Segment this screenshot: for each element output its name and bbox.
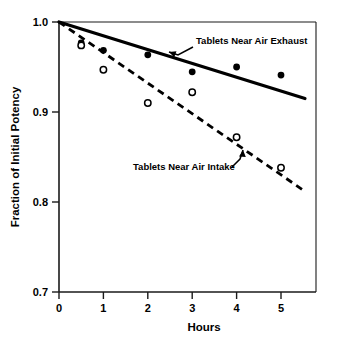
x-tick-label-0: 0 — [56, 302, 62, 314]
data-point-intake-5h — [278, 165, 284, 171]
data-point-exhaust-1h — [100, 47, 107, 54]
data-point-intake-4h — [233, 134, 239, 140]
x-axis-title: Hours — [187, 321, 220, 333]
x-tick-label-2: 2 — [145, 302, 151, 314]
x-tick-label-4: 4 — [234, 302, 241, 314]
data-point-exhaust-5h — [278, 72, 285, 79]
x-tick-label-3: 3 — [189, 302, 195, 314]
chart-figure: 1.0 0.9 0.8 0.7 0 1 2 3 4 5 Hours Fracti… — [0, 0, 343, 342]
data-point-intake-2h — [145, 100, 151, 106]
y-tick-label-1.0: 1.0 — [33, 16, 48, 28]
potency-vs-hours-chart: 1.0 0.9 0.8 0.7 0 1 2 3 4 5 Hours Fracti… — [0, 0, 343, 342]
y-axis-title: Fraction of Initial Potency — [9, 86, 21, 227]
y-tick-label-0.9: 0.9 — [33, 106, 48, 118]
data-point-exhaust-3h — [189, 68, 196, 75]
data-point-intake-1h — [100, 67, 106, 73]
data-point-intake-3h — [189, 89, 195, 95]
annotation-air-intake-label: Tablets Near Air Intake — [133, 161, 235, 172]
y-tick-label-0.7: 0.7 — [33, 286, 48, 298]
x-tick-label-5: 5 — [278, 302, 284, 314]
data-point-exhaust-4h — [233, 64, 240, 71]
x-tick-label-1: 1 — [100, 302, 106, 314]
data-point-exhaust-2h — [144, 51, 151, 58]
data-point-intake-0.5h — [78, 42, 84, 48]
y-tick-label-0.8: 0.8 — [33, 196, 48, 208]
annotation-air-exhaust-label: Tablets Near Air Exhaust — [196, 35, 308, 46]
